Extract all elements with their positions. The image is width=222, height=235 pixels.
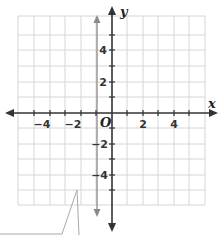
origin-label: O xyxy=(100,115,112,130)
arrow-down-icon xyxy=(94,209,101,217)
y-axis-label: y xyxy=(119,4,129,19)
y-tick-label: 4 xyxy=(99,44,107,57)
y-tick-label: −2 xyxy=(91,138,108,151)
y-tick-label: 2 xyxy=(99,76,107,89)
y-tick-label: −4 xyxy=(91,169,108,182)
x-tick-label: 4 xyxy=(170,118,178,131)
x-tick-label: −4 xyxy=(34,118,51,131)
x-tick-label: 2 xyxy=(139,118,147,131)
x-axis-label: x xyxy=(207,96,216,111)
coordinate-plane: y x O −4 −2 2 4 4 2 −2 −4 xyxy=(0,0,222,235)
arrow-up-icon xyxy=(108,6,116,15)
x-tick-label: −2 xyxy=(65,118,82,131)
callout-pointer xyxy=(0,190,79,235)
arrow-down-icon xyxy=(108,223,116,232)
arrow-left-icon xyxy=(5,109,14,117)
